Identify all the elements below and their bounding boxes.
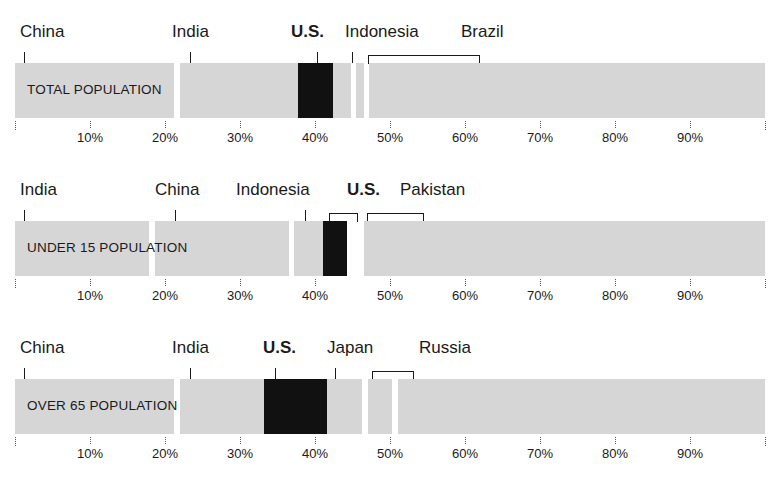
leader-label-japan: Japan (327, 338, 373, 357)
axis-tick (90, 437, 92, 444)
axis-tick (15, 279, 17, 288)
axis-tick (540, 121, 542, 128)
axis-tick (690, 437, 692, 444)
axis-tick (540, 279, 542, 286)
axis-tick-label: 80% (602, 130, 628, 145)
axis-tick-label: 50% (377, 130, 403, 145)
bar-segment-unlabeled (368, 379, 393, 434)
leader-label-us: U.S. (347, 180, 380, 199)
leader-label-india: India (20, 180, 57, 199)
axis-tick (690, 121, 692, 128)
axis-tick (765, 121, 767, 130)
axis-tick-label: 70% (527, 130, 553, 145)
leader-label-us: U.S. (291, 22, 324, 41)
axis-tick-label: 40% (302, 446, 328, 461)
leader-label-pakistan: Pakistan (400, 180, 465, 199)
axis-tick (615, 279, 617, 286)
leader-tick-icon (24, 368, 25, 379)
axis-tick-label: 30% (227, 288, 253, 303)
axis-tick-label: 90% (677, 446, 703, 461)
bar-segment-indonesia (294, 221, 323, 276)
leader-label-india: India (172, 338, 209, 357)
leader-tick-icon (352, 52, 353, 63)
axis-tick (765, 279, 767, 288)
axis-tick (15, 437, 17, 446)
axis-tick (165, 121, 167, 128)
axis-tick (15, 121, 17, 130)
axis-tick (240, 121, 242, 128)
bar-segment-us (298, 63, 333, 118)
leader-tick-icon (190, 368, 191, 379)
axis-tick-label: 50% (377, 288, 403, 303)
axis-tick-label: 60% (452, 288, 478, 303)
bar-caption: TOTAL POPULATION (27, 83, 162, 97)
axis-tick-label: 90% (677, 288, 703, 303)
axis-tick (240, 437, 242, 444)
population-share-chart: ChinaIndiaU.S.IndonesiaBrazilTOTAL POPUL… (0, 0, 778, 483)
leader-tick-icon (275, 368, 276, 379)
axis-tick-label: 20% (152, 288, 178, 303)
x-axis: 10%20%30%40%50%60%70%80%90% (0, 437, 778, 463)
axis-tick (240, 279, 242, 286)
bar-segment-brazil (369, 63, 765, 118)
bar-segment-us (264, 379, 327, 434)
axis-tick (90, 279, 92, 286)
leader-tick-icon (175, 210, 176, 221)
leader-label-us: U.S. (263, 338, 296, 357)
axis-tick-label: 80% (602, 288, 628, 303)
axis-tick (615, 437, 617, 444)
leader-label-brazil: Brazil (461, 22, 504, 41)
axis-tick-label: 20% (152, 446, 178, 461)
leader-label-russia: Russia (419, 338, 471, 357)
axis-tick (690, 279, 692, 286)
axis-tick (615, 121, 617, 128)
axis-tick-label: 20% (152, 130, 178, 145)
leader-label-india: India (172, 22, 209, 41)
axis-tick (390, 279, 392, 286)
bar-segment-russia (398, 379, 766, 434)
leader-tick-icon (335, 368, 336, 379)
leader-label-china: China (20, 338, 64, 357)
bar-segment-indonesia (333, 63, 351, 118)
leader-tick-icon (24, 210, 25, 221)
leader-label-indonesia: Indonesia (345, 22, 419, 41)
axis-tick (315, 121, 317, 128)
leader-label-indonesia: Indonesia (236, 180, 310, 199)
axis-tick (315, 437, 317, 444)
axis-tick-label: 80% (602, 446, 628, 461)
axis-tick (540, 437, 542, 444)
axis-tick-label: 60% (452, 446, 478, 461)
bar-segment-pakistan (364, 221, 765, 276)
axis-tick-label: 70% (527, 288, 553, 303)
x-axis: 10%20%30%40%50%60%70%80%90% (0, 279, 778, 305)
axis-tick-label: 10% (77, 130, 103, 145)
bar-segment-japan (327, 379, 362, 434)
leader-label-china: China (20, 22, 64, 41)
axis-tick-label: 30% (227, 446, 253, 461)
leader-label-china: China (155, 180, 199, 199)
axis-tick (165, 279, 167, 286)
bar-caption: UNDER 15 POPULATION (27, 241, 187, 255)
bar-segment-unlabeled (356, 63, 364, 118)
bar-segment-india (180, 63, 298, 118)
leader-tick-icon (190, 52, 191, 63)
axis-tick (465, 121, 467, 128)
leader-tick-icon (305, 210, 306, 221)
axis-tick-label: 30% (227, 130, 253, 145)
axis-tick (390, 437, 392, 444)
leader-tick-icon (24, 52, 25, 63)
axis-tick-label: 10% (77, 288, 103, 303)
axis-tick (465, 279, 467, 286)
axis-tick (90, 121, 92, 128)
axis-tick-label: 70% (527, 446, 553, 461)
bar-segment-india (180, 379, 264, 434)
axis-tick (315, 279, 317, 286)
bar-caption: OVER 65 POPULATION (27, 399, 177, 413)
chart-row: IndiaChinaIndonesiaU.S.PakistanUNDER 15 … (0, 180, 778, 307)
chart-row: ChinaIndiaU.S.JapanRussiaOVER 65 POPULAT… (0, 338, 778, 465)
chart-row: ChinaIndiaU.S.IndonesiaBrazilTOTAL POPUL… (0, 22, 778, 149)
axis-tick-label: 90% (677, 130, 703, 145)
axis-tick-label: 50% (377, 446, 403, 461)
axis-tick (465, 437, 467, 444)
x-axis: 10%20%30%40%50%60%70%80%90% (0, 121, 778, 147)
